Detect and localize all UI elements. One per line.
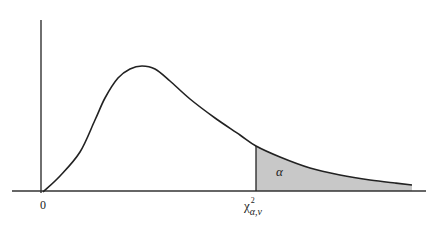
chi-subscript: α,ν bbox=[250, 206, 262, 217]
critical-value-label: χ2α,ν bbox=[244, 197, 262, 217]
origin-label: 0 bbox=[40, 199, 46, 211]
chi-square-diagram bbox=[0, 0, 439, 227]
tail-area-alpha-label: α bbox=[276, 165, 283, 178]
chi-symbol: χ bbox=[244, 198, 250, 213]
chi-superscript: 2 bbox=[251, 196, 255, 205]
density-curve bbox=[43, 66, 412, 192]
